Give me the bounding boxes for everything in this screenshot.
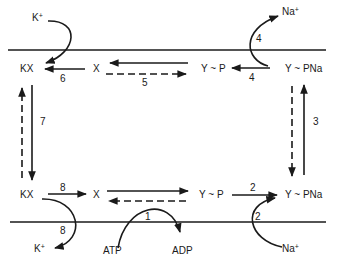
step4-na-release-curve — [250, 16, 278, 66]
step-8-number-upper: 8 — [60, 182, 66, 194]
step-8-number-lower: 8 — [60, 225, 66, 237]
step-5-number: 5 — [142, 77, 148, 89]
atp-label: ATP — [103, 245, 122, 257]
reaction-cycle-diagram — [0, 0, 340, 266]
x-top-label: X — [93, 63, 100, 75]
k-ion-top-label: K+ — [32, 12, 43, 24]
yp-top-label: Y ~ P — [201, 63, 226, 75]
step-4-number-upper: 4 — [256, 33, 262, 45]
step-1-number: 1 — [145, 211, 151, 223]
step-7-number: 7 — [40, 116, 46, 128]
step-4-number-lower: 4 — [249, 72, 255, 84]
x-bottom-label: X — [93, 189, 100, 201]
step-6-number: 6 — [60, 73, 66, 85]
step6-k-binding-curve — [46, 21, 71, 63]
step-2-number-lower: 2 — [255, 211, 261, 223]
adp-label: ADP — [172, 245, 193, 257]
step8-k-release-curve — [42, 199, 76, 248]
na-ion-bottom-label: Na+ — [282, 243, 299, 255]
step-3-number: 3 — [313, 116, 319, 128]
yp-bottom-label: Y ~ P — [199, 189, 224, 201]
kx-top-label: KX — [20, 63, 33, 75]
k-ion-bottom-label: K+ — [34, 243, 45, 255]
na-ion-top-label: Na+ — [282, 6, 299, 18]
kx-bottom-label: KX — [20, 189, 33, 201]
ypna-top-label: Y ~ PNa — [285, 63, 322, 75]
ypna-bottom-label: Y ~ PNa — [285, 189, 322, 201]
step-2-number-upper: 2 — [250, 182, 256, 194]
